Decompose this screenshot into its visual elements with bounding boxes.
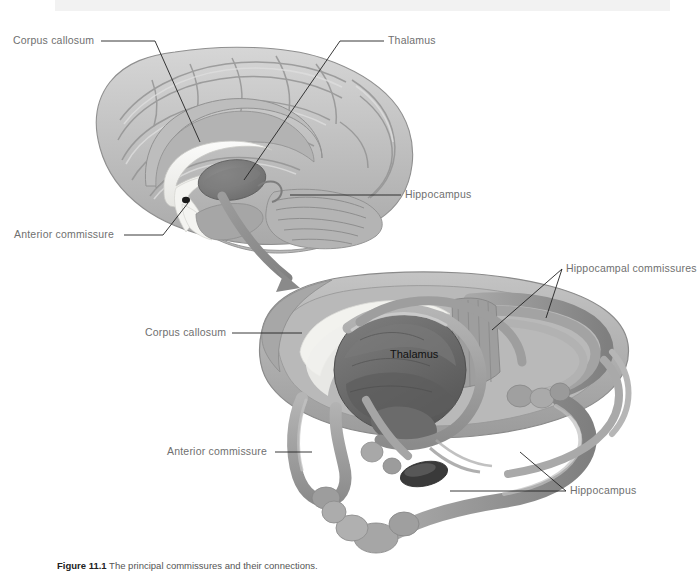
caption-figure-number: Figure 11.1	[57, 560, 107, 571]
label-hippocampus-upper: Hippocampus	[405, 188, 471, 200]
figure-container: Corpus callosum Thalamus Hippocampus Ant…	[0, 0, 699, 571]
lower-commissure-group	[260, 272, 629, 553]
label-anterior-commissure-lower: Anterior commissure	[167, 445, 267, 457]
top-gray-band	[55, 0, 670, 11]
label-hippocampus-lower: Hippocampus	[570, 484, 636, 496]
upper-brain-group	[96, 47, 412, 253]
label-corpus-callosum-lower: Corpus callosum	[145, 326, 226, 338]
label-thalamus-upper: Thalamus	[388, 34, 436, 46]
anterior-commissure-dot	[182, 197, 190, 203]
figure-caption: Figure 11.1 The principal commissures an…	[57, 560, 677, 571]
label-anterior-commissure-upper: Anterior commissure	[14, 228, 114, 240]
fimbria-arc-2	[436, 440, 492, 466]
anatomy-illustration: Corpus callosum Thalamus Hippocampus Ant…	[0, 0, 699, 571]
label-hippocampal-commissures: Hippocampal commissures	[566, 262, 697, 274]
label-corpus-callosum-upper: Corpus callosum	[13, 34, 94, 46]
caption-text: The principal commissures and their conn…	[109, 560, 318, 571]
label-thalamus-lower: Thalamus	[390, 348, 439, 360]
